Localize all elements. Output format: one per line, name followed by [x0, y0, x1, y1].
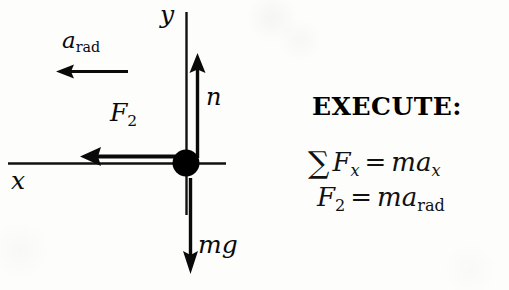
equation-1-lhs-symbol: F	[332, 147, 350, 177]
vector-label-F2: F2	[110, 100, 137, 125]
equation-2-rhs-subscript: rad	[417, 196, 445, 215]
particle-dot	[173, 150, 200, 177]
equation-1-rhs-subscript: x	[432, 161, 441, 180]
axis-label-y: y	[160, 2, 174, 27]
vector-label-a-subscript: rad	[76, 39, 100, 55]
vector-arrow-mg	[183, 178, 198, 274]
execute-heading: EXECUTE:	[312, 92, 506, 121]
vector-label-mg: mg	[198, 232, 238, 257]
equation-sum-forces-x: ∑Fx=max	[308, 143, 506, 178]
vector-label-F-symbol: F	[110, 98, 127, 127]
equation-2-lhs-subscript: 2	[335, 196, 345, 215]
vector-arrow-a-rad	[56, 65, 128, 79]
figure-canvas: y x arad F2 n mg EXECUTE: ∑Fx=max F2=mar…	[0, 0, 509, 290]
equation-1-lhs-subscript: x	[350, 161, 359, 180]
vector-label-a-rad: arad	[62, 29, 100, 52]
vector-arrow-n	[190, 53, 206, 158]
solution-block: EXECUTE: ∑Fx=max F2=marad	[306, 92, 506, 212]
axis-label-x: x	[11, 168, 25, 193]
vector-label-F-subscript: 2	[127, 112, 137, 130]
equation-2-equals: =	[350, 182, 372, 212]
equation-f2-equals-ma-rad: F2=marad	[317, 182, 506, 212]
equation-1-rhs-mass: ma	[391, 147, 431, 177]
vector-label-a-symbol: a	[62, 27, 76, 53]
vector-label-n: n	[206, 85, 221, 109]
equation-2-lhs-symbol: F	[317, 182, 335, 212]
equation-2-rhs-mass: ma	[377, 182, 417, 212]
equation-1-equals: =	[365, 147, 387, 177]
summation-sigma-icon: ∑	[308, 145, 329, 180]
